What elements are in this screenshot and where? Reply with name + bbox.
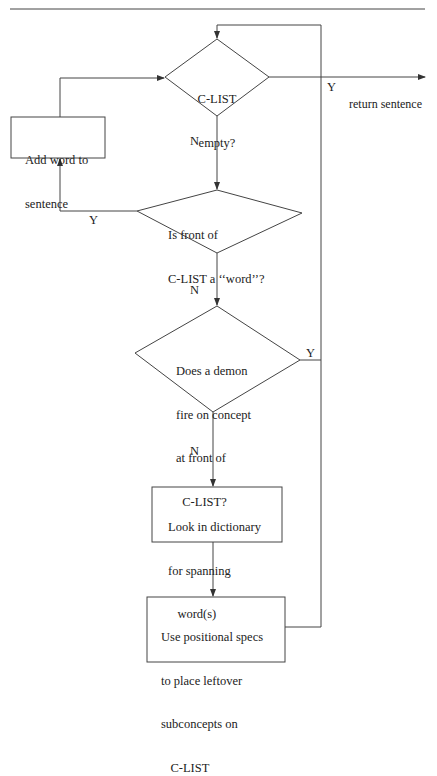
node-text-line: C-LIST <box>192 92 242 107</box>
node-text-line: Add word to <box>25 153 88 168</box>
node-text-line: for spanning <box>168 564 261 579</box>
exit-label: return sentence <box>349 97 422 111</box>
d2-no-label: N <box>190 283 199 297</box>
d1-no-label: N <box>190 134 199 148</box>
add-to-d1-connector <box>60 78 164 117</box>
d3-no-label: N <box>190 444 199 458</box>
node-text-line: Does a demon <box>176 364 251 379</box>
node-text-line: empty? <box>192 136 242 151</box>
node-text-line: C-LIST <box>161 761 263 776</box>
positional-box: Use positional specs to place leftover s… <box>161 601 263 776</box>
node-text-line: Use positional specs <box>161 630 263 645</box>
node-text-line: at front of <box>176 451 251 466</box>
node-text-line: fire on concept <box>176 408 251 423</box>
d3-yes-label: Y <box>306 346 315 360</box>
node-text-line: to place leftover <box>161 674 263 689</box>
d2-yes-label: Y <box>89 213 98 227</box>
node-text-line: Look in dictionary <box>168 520 261 535</box>
node-text-line: subconcepts on <box>161 717 263 732</box>
add-word-box: Add word to sentence <box>25 124 88 226</box>
node-text-line: Is front of <box>168 228 265 243</box>
node-text-line: C-LIST a ‘‘word’’? <box>168 272 265 287</box>
decision-clist-empty: C-LIST empty? <box>192 63 242 165</box>
node-text-line: sentence <box>25 197 88 212</box>
decision-front-word: Is front of C-LIST a ‘‘word’’? <box>168 199 265 301</box>
d1-yes-label: Y <box>327 80 336 94</box>
